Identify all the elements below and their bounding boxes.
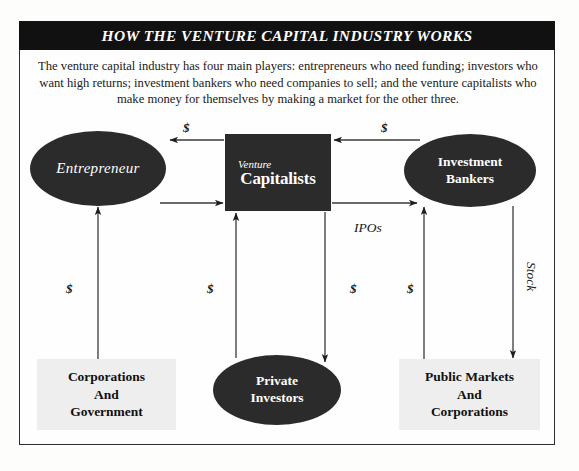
node-private-investors-line2: Investors [250, 390, 303, 407]
edge-label-corp-to-entrepreneur: $ [66, 281, 73, 297]
node-private-investors[interactable]: Private Investors [213, 355, 341, 425]
node-corporations-line2: And [94, 386, 119, 404]
node-investment-bankers[interactable]: Investment Bankers [404, 134, 536, 207]
edge-label-vc-to-private: $ [350, 281, 357, 297]
edge-label-bankers-to-public-stock: Stock [523, 262, 539, 291]
node-corporations-and-government[interactable]: Corporations And Government [37, 359, 176, 430]
edge-label-private-to-vc: $ [207, 281, 214, 297]
node-venture-capitalists-label-main: Capitalists [240, 170, 315, 188]
node-corporations-line3: Government [70, 403, 143, 421]
node-investment-bankers-line1: Investment [438, 154, 503, 171]
edge-label-public-to-bankers: $ [407, 281, 414, 297]
node-entrepreneur-label: Entrepreneur [56, 160, 139, 177]
node-public-markets-and-corporations[interactable]: Public Markets And Corporations [399, 359, 540, 430]
node-venture-capitalists[interactable]: Venture Capitalists [225, 134, 331, 211]
node-private-investors-line1: Private [256, 373, 298, 390]
node-investment-bankers-line2: Bankers [446, 171, 494, 188]
node-corporations-line1: Corporations [68, 368, 145, 386]
node-public-markets-line2: And [457, 386, 482, 404]
edge-label-vc-to-bankers-ipos: IPOs [354, 220, 382, 236]
edge-label-vc-to-entrepreneur: $ [183, 120, 190, 136]
node-entrepreneur[interactable]: Entrepreneur [30, 131, 166, 206]
node-venture-capitalists-label-small: Venture [238, 158, 271, 170]
node-public-markets-line3: Corporations [431, 403, 508, 421]
node-public-markets-line1: Public Markets [425, 368, 514, 386]
edge-label-bankers-to-vc: $ [381, 120, 388, 136]
